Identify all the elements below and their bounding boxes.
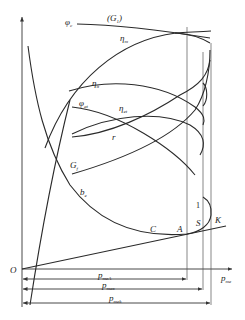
engine-characteristic-diagram: O pme φc (G1) ηm ηit φat ηet r Gf be C A… <box>0 0 245 320</box>
g1-curve <box>175 31 211 33</box>
phi-c-label: φc <box>65 17 73 28</box>
be-curve <box>28 46 211 235</box>
x-axis-label: pme <box>220 273 232 284</box>
s-loop-curve <box>203 83 207 106</box>
eta-i-label: ηit <box>92 78 100 89</box>
pmax-label: pmax <box>101 280 116 291</box>
phi-c-curve <box>77 24 210 38</box>
be-label: be <box>80 187 88 198</box>
phi-at-label: φat <box>79 98 88 109</box>
left-rising-curve <box>30 100 70 305</box>
g1-label: (G1) <box>107 13 122 24</box>
point-K-label: K <box>214 215 222 225</box>
point-C-label: C <box>150 224 157 234</box>
pmek-label: pmek <box>108 293 122 304</box>
diagram-canvas: O pme φc (G1) ηm ηit φat ηet r Gf be C A… <box>0 0 245 320</box>
gf-curve <box>72 50 210 174</box>
point-S-label: S <box>196 218 201 228</box>
point-1-label: 1 <box>196 201 200 210</box>
r-label: r <box>112 132 116 142</box>
gf-label: Gf <box>70 160 79 171</box>
origin-label: O <box>10 265 17 275</box>
eta-m-label: ηm <box>120 33 128 44</box>
eta-et-label: ηet <box>119 103 128 114</box>
point-A-label: A <box>176 224 183 234</box>
